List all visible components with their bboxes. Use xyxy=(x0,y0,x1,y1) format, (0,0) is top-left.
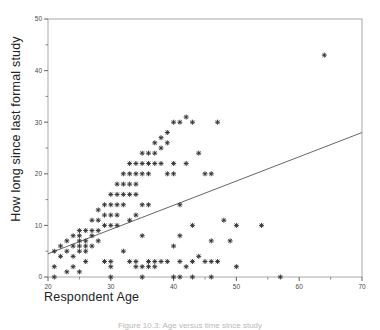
data-point xyxy=(96,228,100,232)
data-point xyxy=(203,259,207,263)
data-point xyxy=(84,228,88,232)
data-point xyxy=(134,213,138,217)
data-point xyxy=(146,259,150,263)
data-point xyxy=(153,161,157,165)
data-point xyxy=(322,53,326,57)
data-point xyxy=(178,234,182,238)
axis-ticks xyxy=(44,19,362,281)
data-point xyxy=(172,120,176,124)
data-point xyxy=(109,275,113,279)
data-point xyxy=(159,146,163,150)
data-point xyxy=(159,259,163,263)
data-point xyxy=(165,172,169,176)
data-point xyxy=(203,172,207,176)
data-point xyxy=(77,270,81,274)
data-point xyxy=(84,259,88,263)
data-point xyxy=(190,223,194,227)
data-point xyxy=(102,213,106,217)
svg-text:60: 60 xyxy=(296,283,304,290)
data-point xyxy=(96,218,100,222)
scatter-plot: 20304050607001020304050 xyxy=(0,0,380,330)
data-point xyxy=(184,161,188,165)
data-point xyxy=(159,136,163,140)
plot-frame xyxy=(48,19,362,277)
data-point xyxy=(52,265,56,269)
data-point xyxy=(172,172,176,176)
figure-container: 20304050607001020304050 Respondent Age H… xyxy=(0,0,380,330)
data-point xyxy=(109,259,113,263)
data-point xyxy=(77,239,81,243)
data-point xyxy=(128,182,132,186)
data-point xyxy=(178,275,182,279)
data-point xyxy=(65,249,69,253)
svg-text:20: 20 xyxy=(35,170,43,177)
svg-text:20: 20 xyxy=(44,283,52,290)
data-point xyxy=(71,244,75,248)
data-point xyxy=(209,172,213,176)
data-point xyxy=(215,120,219,124)
data-point xyxy=(77,234,81,238)
data-point xyxy=(146,265,150,269)
data-point xyxy=(109,203,113,207)
data-point xyxy=(102,203,106,207)
data-point xyxy=(96,208,100,212)
data-point xyxy=(209,239,213,243)
data-point xyxy=(77,228,81,232)
data-point xyxy=(209,259,213,263)
data-point xyxy=(115,192,119,196)
data-point xyxy=(146,151,150,155)
data-point xyxy=(178,120,182,124)
data-point xyxy=(140,275,144,279)
data-point xyxy=(153,259,157,263)
data-point xyxy=(140,203,144,207)
data-point xyxy=(121,182,125,186)
data-point xyxy=(228,239,232,243)
data-point xyxy=(109,192,113,196)
svg-text:30: 30 xyxy=(35,119,43,126)
svg-text:40: 40 xyxy=(170,283,178,290)
data-point xyxy=(58,254,62,258)
data-point xyxy=(77,249,81,253)
data-point xyxy=(190,120,194,124)
data-point xyxy=(234,223,238,227)
data-point xyxy=(128,218,132,222)
data-point xyxy=(234,265,238,269)
data-point xyxy=(172,275,176,279)
y-axis-title: How long since last formal study xyxy=(9,29,23,229)
data-point xyxy=(128,259,132,263)
data-point xyxy=(121,203,125,207)
data-point xyxy=(109,265,113,269)
data-point xyxy=(71,234,75,238)
data-point xyxy=(90,228,94,232)
data-point xyxy=(172,244,176,248)
data-point xyxy=(159,161,163,165)
data-point xyxy=(58,244,62,248)
data-point xyxy=(140,172,144,176)
data-point xyxy=(134,172,138,176)
data-point xyxy=(52,275,56,279)
svg-text:70: 70 xyxy=(358,283,366,290)
data-point xyxy=(65,239,69,243)
data-point xyxy=(165,259,169,263)
x-axis-title: Respondent Age xyxy=(44,290,139,304)
data-point xyxy=(165,141,169,145)
data-point xyxy=(190,275,194,279)
data-point xyxy=(153,151,157,155)
data-point xyxy=(121,172,125,176)
data-point xyxy=(102,259,106,263)
data-point xyxy=(102,223,106,227)
data-point xyxy=(165,130,169,134)
data-point xyxy=(96,239,100,243)
data-point xyxy=(259,223,263,227)
data-point xyxy=(121,192,125,196)
data-point xyxy=(128,172,132,176)
svg-text:10: 10 xyxy=(35,222,43,229)
data-points xyxy=(52,53,326,279)
data-point xyxy=(128,192,132,196)
data-point xyxy=(134,192,138,196)
data-point xyxy=(184,265,188,269)
trendline xyxy=(48,133,362,254)
data-point xyxy=(184,115,188,119)
data-point xyxy=(153,141,157,145)
data-point xyxy=(84,239,88,243)
